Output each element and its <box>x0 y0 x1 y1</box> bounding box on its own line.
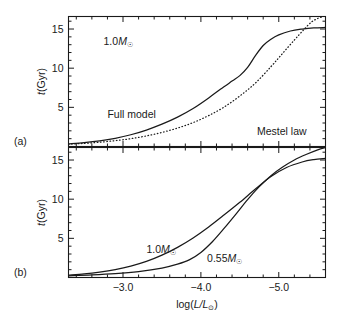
x-ticklabels: −3.0−4.0−5.0log(L/L⊙) <box>113 281 290 311</box>
x-axis-title-suffix: ) <box>214 298 218 310</box>
panel-b-annotations: 1.0M☉0.55M☉ <box>146 243 242 265</box>
panel-a-y-axis-title: t(Gyr) <box>35 68 47 95</box>
x-axis-title-prefix: log( <box>176 298 194 310</box>
annot-solar-sub: ☉ <box>127 42 133 49</box>
panel-b-curves <box>69 148 326 276</box>
panel-b-annotation-1: 1.0M☉ <box>146 243 175 256</box>
panel-b-annotation-2: 0.55M☉ <box>207 252 242 265</box>
y-axis-title-text: t(Gyr) <box>35 68 47 95</box>
annot-mass-symbol: M <box>161 243 170 255</box>
panel-a-annotation-3: Mestel law <box>257 125 307 137</box>
panel-a-annotation-2: Full model <box>107 108 155 120</box>
x-axis-title: log(L/L⊙) <box>176 298 218 311</box>
x-ticklabel: −3.0 <box>113 281 134 293</box>
x-axis-title-var: L/L <box>194 298 209 310</box>
y-ticklabel: 15 <box>52 23 64 35</box>
annot-number: 1.0 <box>146 243 161 255</box>
annot-number: 0.55 <box>207 252 228 264</box>
y-ticklabel: 5 <box>58 232 64 244</box>
annot-mass-symbol: M <box>228 252 237 264</box>
panel-b-tag: (b) <box>14 266 27 278</box>
y-ticklabel: 10 <box>52 193 64 205</box>
annot-number: 1.0 <box>104 35 119 47</box>
figure-svg: 1.0M☉Full modelMestel law1.0M☉0.55M☉5101… <box>0 0 341 323</box>
y-axis-title-text: t(Gyr) <box>35 199 47 226</box>
y-axis-units: (Gyr) <box>35 68 47 92</box>
panel-a-y-ticklabels: 51015 <box>52 23 64 113</box>
annot-mass-symbol: M <box>118 35 127 47</box>
panel-a-annotation-1: 1.0M☉ <box>104 35 133 48</box>
panel-b-curve-1 <box>69 158 326 275</box>
y-axis-units: (Gyr) <box>35 199 47 223</box>
annot-solar-sub: ☉ <box>236 258 242 265</box>
y-ticklabel: 15 <box>52 154 64 166</box>
panel-a-tag: (a) <box>14 135 27 147</box>
x-ticklabel: −4.0 <box>191 281 212 293</box>
annot-solar-sub: ☉ <box>170 249 176 256</box>
panel-b-y-ticklabels: 51015 <box>52 154 64 244</box>
panel-a-annotations: 1.0M☉Full modelMestel law <box>104 35 307 136</box>
y-ticklabel: 5 <box>58 101 64 113</box>
x-ticklabel: −5.0 <box>268 281 289 293</box>
panel-b-y-axis-title: t(Gyr) <box>35 199 47 226</box>
figure-container: 1.0M☉Full modelMestel law1.0M☉0.55M☉5101… <box>0 0 341 323</box>
y-ticklabel: 10 <box>52 62 64 74</box>
